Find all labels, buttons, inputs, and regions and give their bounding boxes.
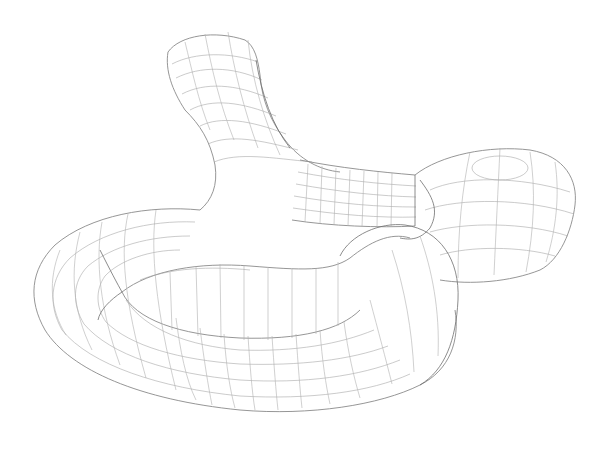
curved-loop	[34, 209, 458, 412]
end-cap	[400, 148, 575, 282]
straight-connector	[292, 160, 416, 227]
wireframe-mesh-drawing	[0, 0, 604, 468]
upper-branch	[167, 32, 340, 210]
wireframe-figure	[0, 0, 604, 468]
